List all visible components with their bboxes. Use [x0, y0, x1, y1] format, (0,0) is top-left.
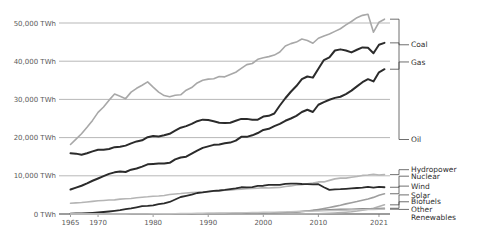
x-axis-tick-label: 2010: [309, 219, 327, 227]
legend-label-nuclear[interactable]: Nuclear: [411, 172, 441, 181]
x-axis-tick-label: 1990: [199, 219, 217, 227]
legend-label-coal[interactable]: Coal: [411, 40, 428, 49]
legend-label-wind[interactable]: Wind: [411, 182, 430, 191]
series-line-gas: [71, 69, 385, 189]
y-axis-tick-label: 30,000 TWh: [14, 96, 56, 104]
y-axis-tick-label: 20,000 TWh: [14, 134, 56, 142]
y-axis-tick-label: 40,000 TWh: [14, 58, 56, 66]
energy-consumption-chart: 0 TWh10,000 TWh20,000 TWh30,000 TWh40,00…: [0, 0, 482, 242]
gridlines-group: [59, 23, 390, 214]
legend-group: OilCoalGasHydropowerNuclearWindSolarBiof…: [390, 19, 457, 222]
x-axis-tick-label: 1965: [62, 219, 80, 227]
series-line-oil: [71, 14, 385, 144]
x-axis-tick-label: 1980: [144, 219, 162, 227]
legend-connector-oil: [390, 19, 409, 139]
x-axis-tick-label: 2021: [370, 219, 388, 227]
x-axis-tick-label: 2000: [254, 219, 272, 227]
legend-connector-nuclear: [390, 176, 409, 187]
y-axis-tick-label: 10,000 TWh: [14, 172, 56, 180]
legend-connector-gas: [390, 62, 409, 69]
legend-label-other-renewables-line2[interactable]: Renewables: [411, 213, 456, 222]
chart-canvas: 0 TWh10,000 TWh20,000 TWh30,000 TWh40,00…: [0, 0, 482, 242]
y-axis-tick-label: 0 TWh: [34, 211, 56, 219]
legend-connector-coal: [390, 43, 409, 45]
legend-connector-solar: [390, 195, 409, 205]
legend-connector-hydropower: [390, 170, 409, 175]
legend-label-gas[interactable]: Gas: [411, 58, 425, 67]
x-axis-tick-label: 1970: [89, 219, 107, 227]
x-axis-labels-group: 1965197019801990200020102021: [62, 214, 388, 227]
y-axis-labels-group: 0 TWh10,000 TWh20,000 TWh30,000 TWh40,00…: [14, 20, 56, 219]
legend-label-oil[interactable]: Oil: [411, 135, 421, 144]
series-line-coal: [71, 43, 385, 155]
y-axis-tick-label: 50,000 TWh: [14, 20, 56, 28]
series-lines-group: [71, 14, 385, 214]
